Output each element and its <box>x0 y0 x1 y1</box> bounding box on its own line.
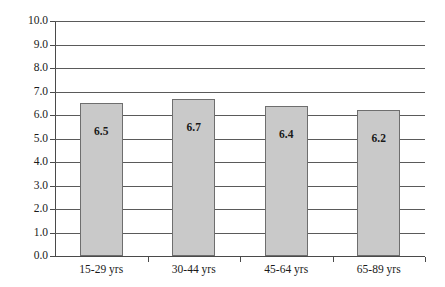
y-axis-tick <box>50 186 55 187</box>
bar: 6.5 <box>80 103 123 256</box>
y-axis-tick-label: 5.0 <box>4 133 48 145</box>
y-axis-tick-label: 1.0 <box>4 227 48 239</box>
y-axis-tick-label: 0.0 <box>4 250 48 262</box>
y-axis-tick <box>50 21 55 22</box>
y-axis-tick <box>50 68 55 69</box>
x-axis-tick-label: 65-89 yrs <box>333 264 426 276</box>
gridline <box>55 92 425 93</box>
y-axis-labels: 10.09.08.07.06.05.04.03.02.01.00.0 <box>0 0 48 287</box>
y-axis-tick-label: 9.0 <box>4 39 48 51</box>
x-axis-tick <box>148 257 149 262</box>
y-axis-tick-label: 7.0 <box>4 86 48 98</box>
gridline <box>55 68 425 69</box>
bar: 6.7 <box>172 99 215 256</box>
y-axis-tick-label: 2.0 <box>4 203 48 215</box>
y-axis-tick-label: 8.0 <box>4 62 48 74</box>
bar-value-label: 6.2 <box>358 133 399 145</box>
x-axis-tick <box>333 257 334 262</box>
y-axis-tick <box>50 162 55 163</box>
y-axis-tick-label: 10.0 <box>4 15 48 27</box>
y-axis-tick <box>50 256 55 257</box>
y-axis-tick-label: 3.0 <box>4 180 48 192</box>
x-axis-tick-label: 30-44 yrs <box>148 264 241 276</box>
bar-value-label: 6.4 <box>266 129 307 141</box>
plot-area: 6.56.76.46.2 <box>55 21 425 256</box>
gridline <box>55 21 425 22</box>
y-axis-tick <box>50 45 55 46</box>
y-axis-tick <box>50 233 55 234</box>
bar: 6.2 <box>357 110 400 256</box>
bar-chart: 10.09.08.07.06.05.04.03.02.01.00.0 6.56.… <box>0 0 445 287</box>
y-axis-tick <box>50 92 55 93</box>
y-axis-tick <box>50 115 55 116</box>
y-axis-tick <box>50 139 55 140</box>
bar-value-label: 6.7 <box>173 122 214 134</box>
x-axis-tick-label: 45-64 yrs <box>240 264 333 276</box>
bar-value-label: 6.5 <box>81 126 122 138</box>
gridline <box>55 45 425 46</box>
x-axis-tick-label: 15-29 yrs <box>55 264 148 276</box>
x-axis-tick <box>425 257 426 262</box>
y-axis-tick-label: 6.0 <box>4 109 48 121</box>
y-axis-tick-label: 4.0 <box>4 156 48 168</box>
y-axis-tick <box>50 209 55 210</box>
bar: 6.4 <box>265 106 308 256</box>
x-axis-tick <box>240 257 241 262</box>
